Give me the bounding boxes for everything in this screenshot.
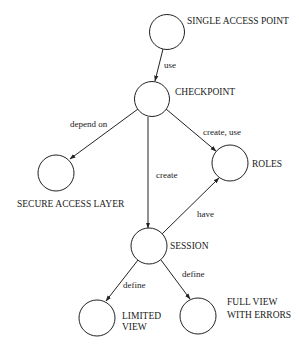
node-limited-view: LIMITED VIEW bbox=[79, 300, 161, 336]
node-session: SESSION bbox=[131, 228, 209, 264]
edge-label-define-limited: define bbox=[123, 280, 146, 290]
node-label: SECURE ACCESS LAYER bbox=[17, 199, 125, 209]
edge-label-create-use: create, use bbox=[203, 127, 241, 137]
edge-label-define-full: define bbox=[182, 269, 205, 279]
node-label-line1: FULL VIEW bbox=[227, 297, 277, 307]
node-single-access-point: SINGLE ACCESS POINT bbox=[150, 15, 290, 50]
node-label-line2: WITH ERRORS bbox=[227, 310, 291, 320]
node-label: ROLES bbox=[252, 159, 282, 169]
node-checkpoint: CHECKPOINT bbox=[135, 82, 236, 117]
edge-label-have: have bbox=[197, 209, 214, 219]
node-label: CHECKPOINT bbox=[175, 87, 235, 97]
arrow-sap-to-checkpoint bbox=[155, 49, 163, 81]
arrow-session-to-full-view bbox=[161, 260, 190, 299]
node-circle bbox=[212, 145, 248, 181]
node-full-view-with-errors: FULL VIEW WITH ERRORS bbox=[180, 297, 291, 334]
node-circle bbox=[135, 82, 170, 117]
edge-label-create: create bbox=[156, 170, 177, 180]
node-circle bbox=[79, 300, 115, 336]
arrow-session-to-roles bbox=[162, 178, 219, 234]
node-circle bbox=[150, 15, 185, 50]
edge-have: have bbox=[162, 178, 219, 234]
node-circle bbox=[180, 298, 216, 334]
pattern-diagram: use depend on create, use create have de… bbox=[0, 0, 299, 344]
node-circle bbox=[131, 228, 167, 264]
edge-define-full: define bbox=[161, 260, 205, 299]
edge-define-limited: define bbox=[106, 260, 146, 301]
node-roles: ROLES bbox=[212, 145, 282, 181]
node-circle bbox=[38, 155, 74, 191]
edge-label-depend-on: depend on bbox=[70, 119, 108, 129]
node-label: SINGLE ACCESS POINT bbox=[187, 16, 289, 26]
edge-use: use bbox=[155, 49, 176, 81]
node-label: SESSION bbox=[170, 241, 209, 251]
node-label-line1: LIMITED bbox=[122, 311, 161, 321]
arrow-checkpoint-to-sal bbox=[70, 109, 138, 159]
node-secure-access-layer: SECURE ACCESS LAYER bbox=[17, 155, 125, 209]
edge-depend-on: depend on bbox=[70, 109, 138, 159]
edge-create: create bbox=[148, 117, 177, 228]
node-label-line2: VIEW bbox=[122, 322, 147, 332]
edge-label-use: use bbox=[164, 60, 176, 70]
